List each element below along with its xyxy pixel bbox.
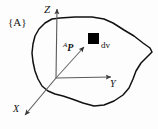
y-axis-line	[56, 77, 111, 78]
position-vector-symbol: P	[67, 42, 73, 53]
volume-element-label: dv	[101, 41, 110, 50]
z-axis-line	[56, 9, 57, 78]
z-axis-label: Z	[44, 4, 50, 15]
diagram-canvas: {A} Z Y X AP dv	[0, 0, 158, 129]
body-outline-shape	[32, 17, 152, 106]
y-axis-label: Y	[110, 79, 116, 89]
position-vector-label: AP	[63, 42, 73, 53]
frame-label: {A}	[8, 17, 27, 28]
x-axis-label: X	[13, 104, 19, 114]
volume-element-marker	[88, 33, 99, 44]
